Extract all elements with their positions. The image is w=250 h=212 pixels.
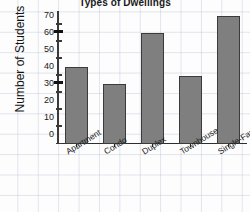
plot-area: 010203040506070 ApartmentCondoDuplexTown… [57, 11, 247, 144]
y-axis-title: Number of Students [13, 0, 27, 124]
y-tick-label-20: 20 [44, 95, 54, 105]
bar-duplex [141, 33, 164, 144]
y-tick-label-30: 30 [44, 78, 54, 88]
y-tick-40 [56, 74, 62, 76]
y-tick-10 [56, 125, 62, 127]
bar-chart-figure: Types of Dwellings Number of Students 01… [0, 0, 250, 212]
chart-title: Types of Dwellings [0, 0, 250, 8]
y-major-tick-35 [54, 81, 63, 84]
bar-single-family [217, 16, 240, 144]
y-tick-0 [56, 143, 62, 145]
y-tick-label-0: 0 [49, 129, 54, 139]
y-tick-label-10: 10 [44, 112, 54, 122]
y-tick-label-70: 70 [44, 10, 54, 20]
y-tick-label-40: 40 [44, 61, 54, 71]
y-tick-20 [56, 108, 62, 110]
y-tick-70 [56, 23, 62, 25]
y-tick-label-50: 50 [44, 44, 54, 54]
bar-apartment [65, 67, 88, 144]
y-tick-50 [56, 57, 62, 59]
y-major-tick-65 [54, 30, 63, 33]
y-tick-label-60: 60 [44, 27, 54, 37]
bar-townhouse [179, 76, 202, 144]
y-tick-60 [56, 40, 62, 42]
y-tick-30 [56, 91, 62, 93]
